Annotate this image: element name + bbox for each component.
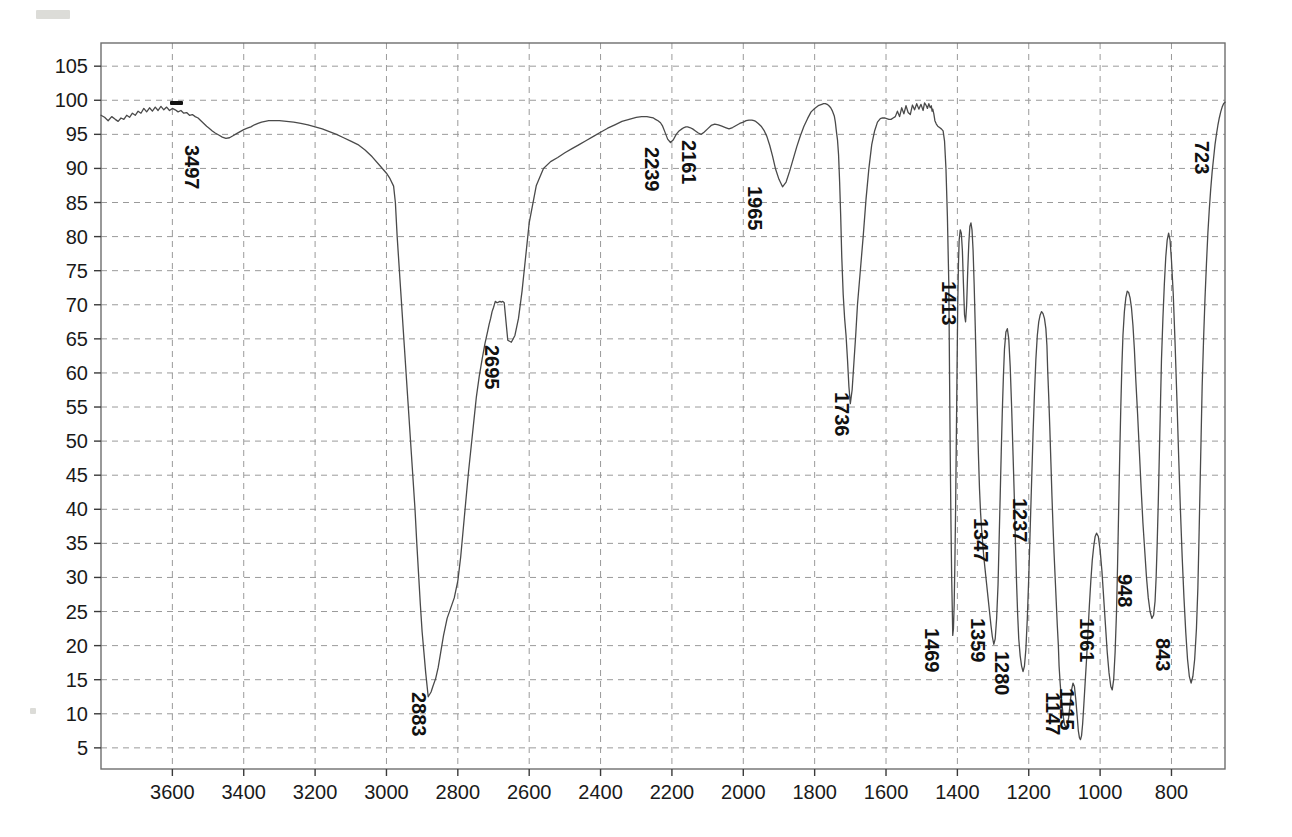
peak-label-1347: 1347 <box>970 518 992 563</box>
y-axis-tick-label: 60 <box>66 362 88 384</box>
x-axis-tick-label: 3400 <box>221 781 266 803</box>
y-axis-tick-label: 20 <box>66 635 88 657</box>
peak-label-723: 723 <box>1191 141 1213 174</box>
peak-label-1469: 1469 <box>921 628 943 673</box>
peak-label-2883: 2883 <box>408 692 430 737</box>
x-axis: 3600340032003000280026002400220020001800… <box>150 769 1188 803</box>
y-axis-tick-label: 95 <box>66 123 88 145</box>
peak-label-3497: 3497 <box>181 145 203 190</box>
baseline-dash-mark <box>170 101 183 105</box>
y-axis: 5101520253035404550556065707580859095100… <box>55 55 101 759</box>
peak-label-1237: 1237 <box>1009 498 1031 543</box>
y-axis-tick-label: 25 <box>66 601 88 623</box>
y-axis-tick-label: 50 <box>66 430 88 452</box>
x-axis-tick-label: 2600 <box>507 781 552 803</box>
peak-label-843: 843 <box>1152 638 1174 671</box>
x-axis-tick-label: 3000 <box>364 781 409 803</box>
y-axis-tick-label: 75 <box>66 260 88 282</box>
peak-label-2161: 2161 <box>678 140 700 185</box>
corner-speck-top-left <box>36 10 70 19</box>
ir-spectrum-figure: 5101520253035404550556065707580859095100… <box>0 0 1292 837</box>
x-axis-tick-label: 2800 <box>436 781 481 803</box>
y-axis-tick-label: 65 <box>66 328 88 350</box>
x-axis-tick-label: 800 <box>1155 781 1188 803</box>
peak-label-1061: 1061 <box>1076 618 1098 663</box>
x-axis-tick-label: 1000 <box>1078 781 1123 803</box>
y-axis-tick-label: 100 <box>55 89 88 111</box>
x-axis-tick-label: 2000 <box>721 781 766 803</box>
x-axis-tick-label: 1800 <box>792 781 837 803</box>
y-axis-tick-label: 15 <box>66 669 88 691</box>
peak-label-1280: 1280 <box>991 651 1013 696</box>
peak-label-1359: 1359 <box>967 618 989 663</box>
x-axis-tick-label: 2400 <box>578 781 623 803</box>
y-axis-tick-label: 55 <box>66 396 88 418</box>
y-axis-tick-label: 90 <box>66 157 88 179</box>
peak-label-948: 948 <box>1114 574 1136 607</box>
x-axis-tick-label: 3200 <box>293 781 338 803</box>
x-axis-tick-label: 1200 <box>1006 781 1051 803</box>
spectrum-chart: 5101520253035404550556065707580859095100… <box>0 0 1292 837</box>
peak-label-1413: 1413 <box>938 281 960 326</box>
x-axis-tick-label: 1600 <box>864 781 909 803</box>
y-axis-tick-label: 70 <box>66 294 88 316</box>
y-axis-tick-label: 105 <box>55 55 88 77</box>
peak-label-2239: 2239 <box>641 147 663 192</box>
y-axis-tick-label: 45 <box>66 464 88 486</box>
y-axis-tick-label: 30 <box>66 566 88 588</box>
peak-label-2695: 2695 <box>481 345 503 390</box>
y-axis-tick-label: 10 <box>66 703 88 725</box>
y-axis-tick-label: 5 <box>77 737 88 759</box>
peak-label-1115: 1115 <box>1056 688 1078 730</box>
y-axis-tick-label: 80 <box>66 226 88 248</box>
x-axis-tick-label: 1400 <box>935 781 980 803</box>
peak-label-1965: 1965 <box>744 186 766 231</box>
x-axis-tick-label: 2200 <box>650 781 695 803</box>
y-axis-tick-label: 40 <box>66 498 88 520</box>
peak-label-1736: 1736 <box>831 392 853 437</box>
y-axis-tick-label: 85 <box>66 192 88 214</box>
x-axis-tick-label: 3600 <box>150 781 195 803</box>
corner-speck-left <box>30 708 36 714</box>
y-axis-tick-label: 35 <box>66 532 88 554</box>
